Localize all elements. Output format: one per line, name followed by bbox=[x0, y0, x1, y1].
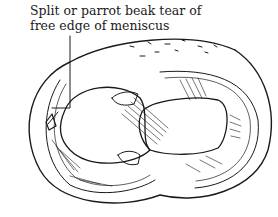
lateral-meniscus-rim bbox=[160, 71, 258, 188]
meniscus-illustration bbox=[0, 0, 278, 217]
tibial-plateau-outline bbox=[70, 39, 235, 62]
plateau-stipple bbox=[130, 40, 217, 56]
outer-outline bbox=[29, 50, 271, 203]
lateral-opening bbox=[139, 98, 227, 154]
